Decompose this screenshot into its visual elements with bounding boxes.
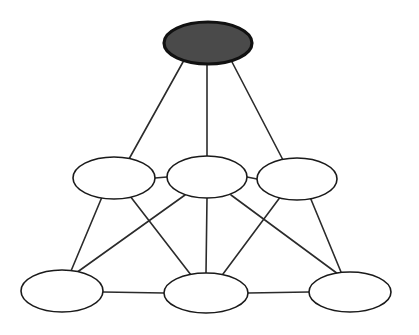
graph-node-top[interactable] (164, 22, 252, 64)
graph-edge-mid-center-to-bottom-right (231, 195, 338, 274)
graph-edge-top-to-mid-right (232, 62, 283, 160)
graph-node-mid-right[interactable] (257, 158, 337, 200)
graph-edge-mid-center-to-bottom-left (76, 195, 185, 273)
graph-edge-top-to-mid-left (129, 62, 183, 159)
graph-node-mid-center[interactable] (167, 156, 247, 198)
graph-node-mid-left[interactable] (73, 157, 155, 199)
graph-edge-bottom-left-to-bottom-center (103, 292, 164, 293)
graph-edge-mid-left-to-bottom-center (130, 196, 191, 275)
graph-edge-bottom-center-to-bottom-right (248, 292, 309, 293)
graph-edge-mid-left-to-mid-center (155, 177, 167, 178)
graph-canvas (0, 0, 419, 335)
graph-edge-mid-right-to-bottom-center (223, 196, 281, 274)
graph-node-bottom-right[interactable] (309, 272, 391, 312)
graph-diagram (0, 0, 419, 335)
graph-edge-mid-left-to-bottom-left (71, 197, 102, 271)
graph-edge-mid-center-to-mid-right (247, 177, 257, 179)
graph-edge-mid-center-to-bottom-center (206, 198, 207, 273)
graph-node-bottom-left[interactable] (21, 270, 103, 312)
graph-node-bottom-center[interactable] (164, 273, 248, 313)
graph-edge-mid-right-to-bottom-right (310, 197, 341, 272)
